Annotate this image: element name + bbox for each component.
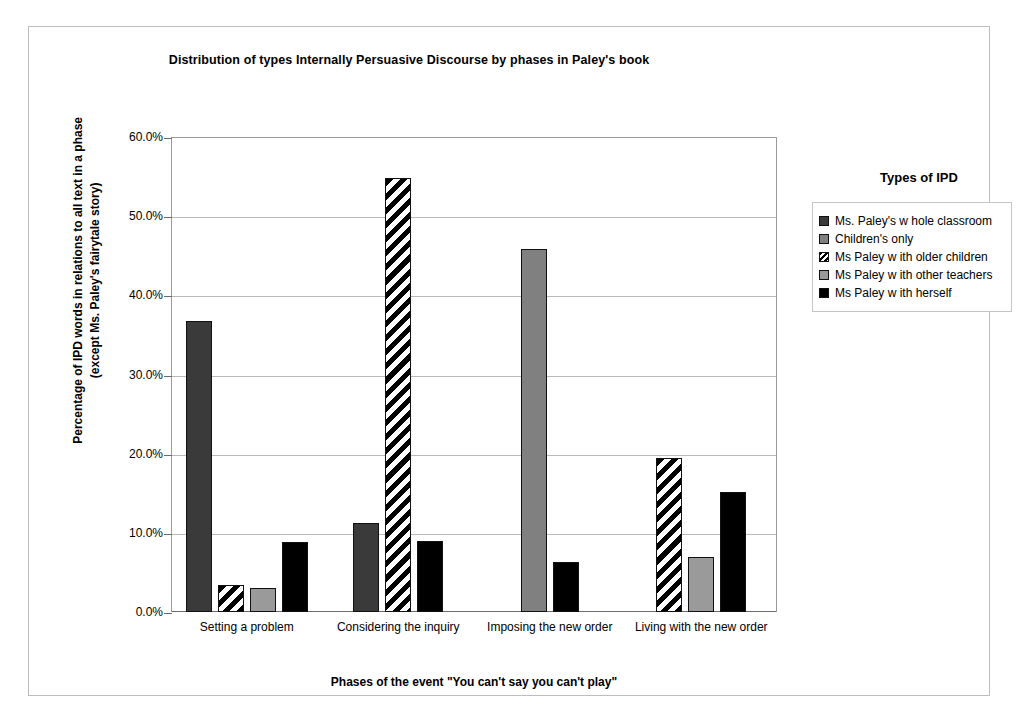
x-axis-tick-label: Setting a problem — [171, 619, 323, 635]
legend: Ms. Paley's w hole classroomChildren's o… — [812, 202, 1012, 312]
legend-item-label: Children's only — [835, 232, 913, 246]
bar[interactable] — [353, 523, 379, 612]
x-axis-tick-label: Living with the new order — [626, 619, 778, 635]
bar-group — [626, 137, 778, 612]
legend-swatch-icon — [819, 234, 829, 244]
y-axis-tick-label: 0.0% — [136, 605, 163, 619]
chart-frame: Distribution of types Internally Persuas… — [28, 26, 990, 696]
bar[interactable] — [656, 458, 682, 612]
legend-swatch-icon — [819, 252, 829, 262]
bar-group-bars — [626, 137, 778, 612]
y-axis-tick-labels: 0.0%10.0%20.0%30.0%40.0%50.0%60.0% — [103, 137, 163, 612]
legend-item-label: Ms Paley w ith other teachers — [835, 268, 992, 282]
legend-item[interactable]: Ms Paley w ith herself — [819, 286, 1005, 300]
x-axis-tick-label: Considering the inquiry — [323, 619, 475, 635]
bar-group — [323, 137, 475, 612]
y-axis-tick — [164, 613, 172, 614]
bar-group — [171, 137, 323, 612]
bar[interactable] — [385, 178, 411, 612]
y-axis-tick-label: 60.0% — [129, 130, 163, 144]
bar[interactable] — [417, 541, 443, 612]
bar[interactable] — [218, 585, 244, 612]
legend-item[interactable]: Ms Paley w ith other teachers — [819, 268, 1005, 282]
bar-groups — [171, 137, 777, 612]
x-axis-tick-label: Imposing the new order — [474, 619, 626, 635]
legend-item-label: Ms Paley w ith older children — [835, 250, 988, 264]
legend-item[interactable]: Children's only — [819, 232, 1005, 246]
y-axis-title: Percentage of IPD words in relations to … — [70, 70, 105, 490]
legend-title: Types of IPD — [819, 170, 1018, 185]
bar[interactable] — [553, 562, 579, 612]
bar-group-bars — [323, 137, 475, 612]
y-axis-title-line-1: Percentage of IPD words in relations to … — [70, 70, 87, 490]
bar[interactable] — [521, 249, 547, 612]
bar[interactable] — [720, 492, 746, 612]
legend-swatch-icon — [819, 216, 829, 226]
bar[interactable] — [282, 542, 308, 612]
y-axis-tick-label: 50.0% — [129, 209, 163, 223]
bar[interactable] — [250, 588, 276, 612]
bar-group-bars — [474, 137, 626, 612]
legend-swatch-icon — [819, 270, 829, 280]
y-axis-tick-label: 30.0% — [129, 368, 163, 382]
x-axis-title: Phases of the event "You can't say you c… — [171, 675, 777, 689]
bar[interactable] — [688, 557, 714, 612]
legend-item-label: Ms Paley w ith herself — [835, 286, 952, 300]
y-axis-tick-label: 10.0% — [129, 526, 163, 540]
y-axis-title-line-2: (except Ms. Paley's fairytale story) — [87, 70, 104, 490]
chart-title: Distribution of types Internally Persuas… — [29, 53, 789, 67]
legend-item[interactable]: Ms. Paley's w hole classroom — [819, 214, 1005, 228]
x-axis-tick-labels: Setting a problemConsidering the inquiry… — [171, 619, 777, 635]
bar-group-bars — [171, 137, 323, 612]
legend-item[interactable]: Ms Paley w ith older children — [819, 250, 1005, 264]
bar[interactable] — [186, 321, 212, 612]
y-axis-tick-label: 20.0% — [129, 447, 163, 461]
legend-item-label: Ms. Paley's w hole classroom — [835, 214, 992, 228]
y-axis-tick-label: 40.0% — [129, 288, 163, 302]
legend-swatch-icon — [819, 288, 829, 298]
bar-group — [474, 137, 626, 612]
